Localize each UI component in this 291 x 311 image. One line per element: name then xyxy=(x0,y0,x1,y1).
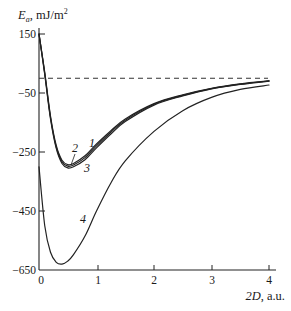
curve-4 xyxy=(39,85,269,264)
y-tick-label: 150 xyxy=(19,28,37,40)
x-axis-title: 2D, a.u. xyxy=(245,289,285,303)
x-ticks: 0 1 2 3 4 xyxy=(38,265,272,286)
x-axis-title-units: , a.u. xyxy=(261,289,285,303)
curve-label-3: 3 xyxy=(83,161,90,175)
x-tick-label: 2 xyxy=(151,274,157,286)
y-axis-title-symbol: E xyxy=(17,8,26,22)
y-axis-title-units: , mJ/m xyxy=(30,8,64,22)
y-ticks: 150 −50 −250 −450 −650 xyxy=(12,28,45,276)
x-tick-label: 4 xyxy=(266,274,272,286)
curve-label-2: 2 xyxy=(72,141,78,155)
y-tick-label: −250 xyxy=(12,146,36,158)
x-tick-label: 1 xyxy=(95,274,101,286)
y-axis-title-superscript: 2 xyxy=(64,7,68,16)
curve-label-1: 1 xyxy=(89,136,95,150)
line-chart: Ea, mJ/m2 150 −50 −250 −450 −650 0 1 2 3… xyxy=(0,0,291,311)
y-axis-title: Ea, mJ/m2 xyxy=(17,7,68,24)
x-axis-title-symbol: 2D xyxy=(245,289,260,303)
y-tick-label: −50 xyxy=(18,87,36,99)
y-tick-label: −450 xyxy=(12,205,36,217)
y-tick-label: −650 xyxy=(12,264,36,276)
x-tick-label: 0 xyxy=(38,274,44,286)
curve-label-4: 4 xyxy=(80,212,86,226)
x-tick-label: 3 xyxy=(209,274,215,286)
